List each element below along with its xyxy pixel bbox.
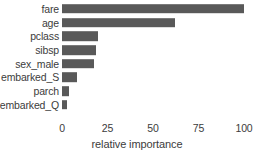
x-axis-title: relative importance — [0, 138, 256, 151]
x-axis-tick-labels: 0 25 50 75 100 — [0, 122, 256, 136]
bar-row: embarked_Q — [0, 98, 256, 112]
bar-pclass — [62, 31, 98, 41]
bar-age — [62, 18, 175, 28]
relative-importance-bar-chart: fare age pclass sibsp sex_male embarked_… — [0, 0, 256, 156]
x-axis-title-text: relative importance — [91, 138, 182, 150]
bar-row: parch — [0, 84, 256, 98]
category-label: embarked_S — [1, 72, 59, 83]
category-label: sex_male — [15, 58, 59, 69]
bar-embarked-q — [62, 100, 67, 110]
bar-row: pclass — [0, 29, 256, 43]
bar-row: embarked_S — [0, 71, 256, 85]
x-tick-label: 25 — [102, 122, 113, 135]
x-tick-label: 0 — [59, 122, 65, 135]
x-tick-label: 75 — [193, 122, 204, 135]
category-label: sibsp — [35, 44, 59, 55]
plot-area: fare age pclass sibsp sex_male embarked_… — [0, 0, 256, 120]
bar-parch — [62, 86, 69, 96]
bar-row: age — [0, 16, 256, 30]
category-label: pclass — [30, 31, 59, 42]
bar-sibsp — [62, 45, 96, 55]
bar-row: sex_male — [0, 57, 256, 71]
x-tick-label: 50 — [147, 122, 158, 135]
category-label: embarked_Q — [0, 99, 59, 110]
x-tick-label: 100 — [235, 122, 252, 135]
bar-row: sibsp — [0, 43, 256, 57]
bar-row: fare — [0, 2, 256, 16]
bar-sex-male — [62, 59, 94, 69]
category-label: age — [42, 17, 59, 28]
category-label: fare — [42, 3, 60, 14]
bar-embarked-s — [62, 73, 77, 83]
category-label: parch — [33, 86, 59, 97]
bar-fare — [62, 4, 244, 14]
